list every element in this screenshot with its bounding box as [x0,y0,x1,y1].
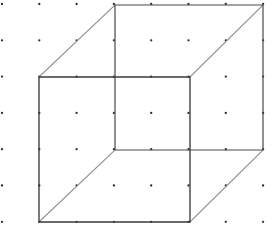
grid-dot [38,3,40,5]
grid-dot [225,75,227,77]
grid-dot [187,39,189,41]
grid-dot [75,148,77,150]
grid-dot [1,75,3,77]
grid-dot [187,184,189,186]
grid-dot [187,112,189,114]
grid-dot [1,148,3,150]
grid-dot [113,184,115,186]
grid-dot [1,3,3,5]
grid-dot [262,184,264,186]
canvas-background [0,0,272,235]
figure-canvas [0,0,272,235]
necker-cube-drawing [0,0,272,235]
grid-dot [1,39,3,41]
grid-dot [225,112,227,114]
grid-dot [150,112,152,114]
grid-dot [150,39,152,41]
grid-dot [262,221,264,223]
grid-dot [75,3,77,5]
grid-dot [1,112,3,114]
grid-dot [38,39,40,41]
grid-dot [1,184,3,186]
grid-dot [1,221,3,223]
grid-dot [150,184,152,186]
grid-dot [225,221,227,223]
grid-dot [75,112,77,114]
